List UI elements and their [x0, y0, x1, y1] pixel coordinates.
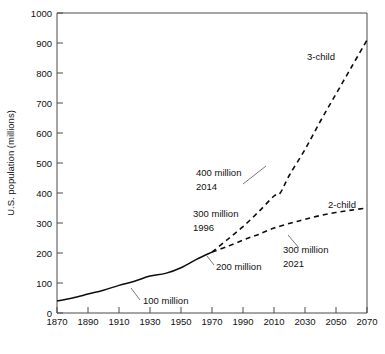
y-tick-label: 700 — [36, 98, 52, 109]
annotation-300-million-2021-line1: 300 million — [283, 244, 328, 255]
y-tick-label: 900 — [36, 38, 52, 49]
x-tick-label: 1990 — [232, 316, 253, 327]
y-axis-tick-labels: 1000 900 800 700 600 500 400 300 200 100… — [31, 8, 52, 319]
annotation-300-million-1996-line1: 300 million — [193, 208, 238, 219]
y-tick-label: 800 — [36, 68, 52, 79]
y-axis-title: U.S. population (millions) — [5, 110, 16, 216]
x-tick-label: 2010 — [263, 316, 284, 327]
annotation-two-child-label: 2-child — [328, 199, 356, 210]
y-tick-label: 600 — [36, 128, 52, 139]
population-projection-chart: 1000 900 800 700 600 500 400 300 200 100… — [0, 0, 385, 354]
x-tick-label: 2050 — [325, 316, 346, 327]
chart-canvas: 1000 900 800 700 600 500 400 300 200 100… — [0, 0, 385, 354]
annotation-300-million-1996-line2: 1996 — [193, 222, 214, 233]
x-tick-label: 1970 — [201, 316, 222, 327]
annotation-400-million-2014-line2: 2014 — [196, 181, 217, 192]
y-tick-label: 300 — [36, 218, 52, 229]
annotation-300-million-2021-line2: 2021 — [283, 258, 304, 269]
x-tick-label: 1890 — [77, 316, 98, 327]
annotation-three-child-label: 3-child — [307, 51, 335, 62]
leader-line-400-million-2014 — [243, 166, 266, 184]
x-tick-label: 2070 — [356, 316, 377, 327]
x-tick-label: 2030 — [294, 316, 315, 327]
leader-line-100-million — [131, 288, 140, 300]
y-tick-label: 1000 — [31, 8, 52, 19]
y-axis-title-text: U.S. population (millions) — [5, 110, 16, 216]
x-axis-tick-labels: 1870 1890 1910 1930 1950 1970 1990 2010 … — [46, 316, 377, 327]
x-tick-label: 1870 — [46, 316, 67, 327]
annotation-200-million: 200 million — [216, 261, 261, 272]
annotation-400-million-2014-line1: 400 million — [196, 167, 241, 178]
y-tick-label: 400 — [36, 188, 52, 199]
y-tick-label: 200 — [36, 248, 52, 259]
annotation-100-million: 100 million — [143, 295, 188, 306]
x-tick-label: 1930 — [139, 316, 160, 327]
y-tick-label: 100 — [36, 278, 52, 289]
x-tick-label: 1910 — [108, 316, 129, 327]
y-axis-ticks — [57, 13, 63, 313]
leader-line-200-million — [207, 256, 214, 265]
series-three-child-line — [212, 40, 367, 252]
y-tick-label: 500 — [36, 158, 52, 169]
x-axis-ticks — [57, 307, 367, 313]
series-historical-line — [57, 252, 212, 301]
x-tick-label: 1950 — [170, 316, 191, 327]
